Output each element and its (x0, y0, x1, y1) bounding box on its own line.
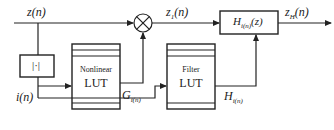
gain-line (120, 33, 143, 83)
index-signal-label: i(n) (16, 91, 33, 103)
filter-lut-line2: LUT (167, 77, 215, 89)
nonlinear-lut-line2: LUT (72, 77, 120, 89)
filter-coeffs-label: Hi(n) (224, 90, 243, 105)
abs-block-label: |·| (32, 60, 40, 71)
nonlinear-lut-label: Nonlinear LUT (72, 66, 120, 89)
input-signal-label: z(n) (27, 6, 46, 18)
gain-label: Gi(n) (122, 89, 141, 104)
filter-lut-line1: Filter (167, 66, 215, 74)
filter-lut-label: Filter LUT (167, 66, 215, 89)
multiplier-output-label: z1(n) (166, 6, 188, 21)
nonlinear-lut-line1: Nonlinear (72, 66, 120, 74)
multiplier-icon (134, 14, 152, 32)
output-signal-label: zH(n) (285, 6, 309, 21)
coeff-line (215, 35, 256, 86)
filter-block-label: Hi(n)(z) (233, 16, 263, 30)
